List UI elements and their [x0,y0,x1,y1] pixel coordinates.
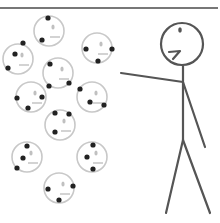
dot-marker [83,46,88,51]
dot-marker [52,110,57,115]
dot-marker [14,165,19,170]
dot-marker [20,40,25,45]
dot-marker [109,46,114,51]
smiley-face [77,142,107,172]
smiley-face [77,82,107,112]
face-eye [20,52,23,57]
dot-marker [20,155,25,160]
dot-marker [14,95,19,100]
smiley-face [43,58,73,89]
dot-marker [46,83,51,88]
comic-scene [0,0,220,223]
smiley-face [14,82,46,112]
smiley-face [34,15,64,46]
dot-marker [66,80,71,85]
face-eye [94,150,97,155]
face-eye [62,118,65,123]
smiley-face [3,40,33,74]
figure-mouth [169,51,180,59]
dot-marker [56,197,61,202]
face-eye [61,181,64,186]
face-eye [29,150,32,155]
figure-eye [178,27,182,33]
comic-panel: Comic panel: stick figure pointing at a … [0,0,220,223]
smiley-face [44,173,76,203]
smiley-face [12,142,42,172]
face-outline [34,16,64,46]
dot-marker [39,37,44,42]
dot-marker [70,183,75,188]
stick-figure [121,23,210,213]
dot-marker [77,86,82,91]
dot-marker [5,65,10,70]
face-eye [33,90,36,95]
face-eye [60,66,63,71]
dot-marker [45,15,50,20]
dot-marker [25,105,30,110]
figure-left-leg [166,140,183,213]
face-eye [51,24,54,29]
figure-head [161,23,203,65]
smiley-face [45,110,75,140]
face-eye [94,90,97,95]
dot-marker [39,94,44,99]
crowd-of-faces [3,15,115,203]
dot-marker [84,154,89,159]
figure-pointing-arm [121,73,183,82]
dot-marker [101,102,106,107]
dot-marker [52,129,57,134]
dot-marker [45,186,50,191]
dot-marker [90,142,95,147]
face-outline [77,82,107,112]
figure-other-arm [183,82,205,147]
dot-marker [66,111,71,116]
dot-marker [12,51,17,56]
dot-marker [95,58,100,63]
face-eye [99,41,102,46]
dot-marker [90,166,95,171]
figure-right-leg [183,140,210,213]
smiley-face [82,33,115,64]
dot-marker [87,99,92,104]
dot-marker [47,61,52,66]
dot-marker [24,143,29,148]
